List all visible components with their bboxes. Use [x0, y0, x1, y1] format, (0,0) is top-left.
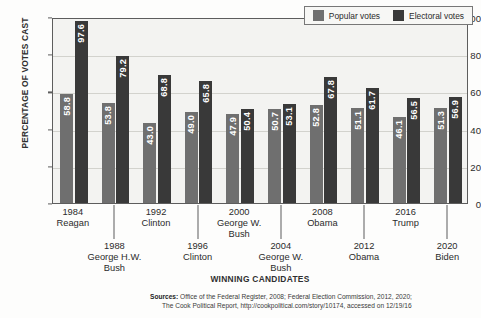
sources-line-2: The Cook Political Report, http://cookpo…: [150, 301, 476, 310]
bar-popular: 47.9: [226, 114, 239, 203]
bar-popular: 49.0: [185, 112, 198, 203]
legend-swatch: [313, 10, 324, 21]
bar-value-label: 53.8: [103, 106, 113, 125]
x-label-connector: [114, 205, 115, 239]
bar-electoral: 56.5: [407, 98, 420, 203]
x-axis-label: 1996Clinton: [183, 241, 212, 263]
x-label-name: Trump: [392, 218, 419, 229]
x-label-name: George W.: [259, 252, 303, 263]
bar-electoral: 53.1: [283, 104, 296, 203]
bar-value-label: 51.3: [436, 111, 446, 130]
bar-value-label: 47.9: [228, 117, 238, 136]
x-label-name: Obama: [307, 218, 338, 229]
legend-label: Electoral votes: [409, 11, 464, 21]
bar-popular: 58.8: [60, 94, 73, 203]
bar-value-label: 49.0: [186, 115, 196, 134]
bar-value-label: 50.7: [270, 112, 280, 131]
x-label-connector: [197, 205, 198, 239]
bar-value-label: 65.8: [201, 84, 211, 103]
bar-popular: 51.1: [351, 108, 364, 203]
bar-value-label: 61.7: [367, 91, 377, 110]
bar-value-label: 51.1: [353, 111, 363, 130]
bar-value-label: 50.4: [242, 112, 252, 131]
plot-area: 58.897.653.879.243.068.849.065.847.950.4…: [52, 18, 468, 204]
election-votes-bar-chart: PERCENTAGE OF VOTES CAST 020406080100 58…: [0, 0, 481, 318]
bar-value-label: 79.2: [118, 59, 128, 78]
x-label-connector: [364, 205, 365, 239]
legend-label: Popular votes: [329, 11, 380, 21]
x-axis-label: 2016Trump: [392, 207, 419, 229]
x-label-name: Clinton: [183, 252, 212, 263]
x-axis-label: 1984Reagan: [57, 207, 90, 229]
bar-value-label: 52.8: [311, 108, 321, 127]
bar-value-label: 43.0: [145, 126, 155, 145]
chart-legend: Popular votesElectoral votes: [304, 6, 473, 25]
y-axis-title: PERCENTAGE OF VOTES CAST: [20, 0, 30, 178]
sources-label: Sources:: [150, 293, 178, 300]
x-label-name: Obama: [349, 252, 380, 263]
legend-item: Popular votes: [313, 10, 380, 21]
x-label-name-2: Bush: [88, 263, 142, 274]
x-axis-label: 1988George H.W.Bush: [88, 241, 142, 275]
bar-value-label: 67.8: [326, 80, 336, 99]
legend-swatch: [393, 10, 404, 21]
x-label-year: 1988: [88, 241, 142, 252]
bar-value-label: 68.8: [159, 78, 169, 97]
x-label-name: Clinton: [142, 218, 171, 229]
x-axis-label: 1992Clinton: [142, 207, 171, 229]
legend-item: Electoral votes: [393, 10, 464, 21]
bar-value-label: 46.1: [394, 120, 404, 139]
x-label-name-2: Bush: [259, 263, 303, 274]
x-label-year: 2020: [435, 241, 459, 252]
x-label-year: 2000: [217, 207, 261, 218]
bar-value-label: 56.5: [409, 101, 419, 120]
x-label-name: Biden: [435, 252, 459, 263]
x-label-year: 2016: [392, 207, 419, 218]
x-axis-title: WINNING CANDIDATES: [52, 274, 468, 284]
bar-electoral: 56.9: [449, 97, 462, 203]
bar-electoral: 79.2: [116, 56, 129, 203]
bar-electoral: 65.8: [199, 81, 212, 203]
bars-layer: 58.897.653.879.243.068.849.065.847.950.4…: [53, 19, 467, 203]
x-axis-label: 2008Obama: [307, 207, 338, 229]
bar-popular: 43.0: [143, 123, 156, 203]
bar-value-label: 56.9: [450, 100, 460, 119]
x-label-year: 2012: [349, 241, 380, 252]
bar-electoral: 67.8: [324, 77, 337, 203]
x-label-year: 2008: [307, 207, 338, 218]
bar-popular: 46.1: [393, 117, 406, 203]
bar-electoral: 68.8: [158, 75, 171, 203]
x-label-year: 1992: [142, 207, 171, 218]
x-label-name: Reagan: [57, 218, 90, 229]
x-label-year: 1984: [57, 207, 90, 218]
bar-popular: 52.8: [310, 105, 323, 203]
bar-value-label: 97.6: [76, 24, 86, 43]
bar-popular: 53.8: [102, 103, 115, 203]
x-axis-label: 2012Obama: [349, 241, 380, 263]
bar-electoral: 50.4: [241, 109, 254, 203]
x-label-name-2: Bush: [217, 229, 261, 240]
sources-note: Sources: Office of the Federal Register,…: [150, 292, 476, 311]
bar-popular: 50.7: [268, 109, 281, 203]
x-label-name: George H.W.: [88, 252, 142, 263]
x-axis-label: 2004George W.Bush: [259, 241, 303, 275]
bar-electoral: 97.6: [75, 21, 88, 203]
x-axis-label: 2020Biden: [435, 241, 459, 263]
bar-popular: 51.3: [434, 108, 447, 203]
x-axis-label: 2000George W.Bush: [217, 207, 261, 241]
x-label-year: 2004: [259, 241, 303, 252]
bar-electoral: 61.7: [366, 88, 379, 203]
x-label-year: 1996: [183, 241, 212, 252]
sources-line-1: Office of the Federal Register, 2008; Fe…: [178, 293, 412, 300]
x-label-connector: [447, 205, 448, 239]
bar-value-label: 58.8: [62, 97, 72, 116]
x-label-name: George W.: [217, 218, 261, 229]
bar-value-label: 53.1: [284, 107, 294, 126]
x-label-connector: [280, 205, 281, 239]
x-axis-labels: 1984Reagan1988George H.W.Bush1992Clinton…: [52, 205, 468, 273]
